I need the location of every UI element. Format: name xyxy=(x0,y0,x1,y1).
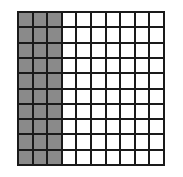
grid-cell-shaded xyxy=(18,43,33,58)
grid-cell xyxy=(62,89,77,104)
grid-cell xyxy=(120,119,135,134)
grid-cell xyxy=(135,150,150,165)
grid-cell xyxy=(135,134,150,149)
grid-cell xyxy=(62,104,77,119)
grid-cell xyxy=(91,134,106,149)
grid-cell xyxy=(91,27,106,42)
grid-cell xyxy=(76,150,91,165)
grid-cell xyxy=(149,134,164,149)
grid-cell-shaded xyxy=(33,73,48,88)
grid-cell xyxy=(149,119,164,134)
grid-cell xyxy=(120,27,135,42)
grid-cell xyxy=(91,58,106,73)
grid-cell xyxy=(62,58,77,73)
grid-cell xyxy=(120,150,135,165)
grid-cell-shaded xyxy=(47,104,62,119)
grid-cell xyxy=(149,43,164,58)
grid-cell xyxy=(106,119,121,134)
grid-cell xyxy=(91,119,106,134)
grid-cell xyxy=(135,89,150,104)
grid-cell-shaded xyxy=(47,43,62,58)
grid-cell xyxy=(106,58,121,73)
grid-cell xyxy=(62,134,77,149)
grid-cell xyxy=(76,12,91,27)
grid-cell xyxy=(62,119,77,134)
grid-cell xyxy=(76,104,91,119)
grid-cell xyxy=(76,134,91,149)
grid-cell-shaded xyxy=(33,104,48,119)
grid-cell xyxy=(120,89,135,104)
grid-cell xyxy=(91,73,106,88)
grid-cell xyxy=(62,43,77,58)
grid-cell xyxy=(106,104,121,119)
grid-cell-shaded xyxy=(47,150,62,165)
grid-cell xyxy=(106,150,121,165)
grid-cell xyxy=(91,150,106,165)
grid-cell-shaded xyxy=(47,89,62,104)
grid-cell xyxy=(149,27,164,42)
grid-cell xyxy=(106,73,121,88)
grid-cell-shaded xyxy=(47,134,62,149)
grid-cell xyxy=(149,58,164,73)
grid-cell xyxy=(106,27,121,42)
grid-cell-shaded xyxy=(33,43,48,58)
grid-cell xyxy=(120,12,135,27)
grid-cell xyxy=(120,134,135,149)
grid-cell xyxy=(76,58,91,73)
grid-cell xyxy=(135,43,150,58)
grid-cell xyxy=(62,73,77,88)
grid-cell xyxy=(76,27,91,42)
grid-cell xyxy=(91,43,106,58)
grid-cell xyxy=(120,43,135,58)
grid-cell xyxy=(106,12,121,27)
grid-cell-shaded xyxy=(33,58,48,73)
grid-cell xyxy=(149,104,164,119)
grid-cell-shaded xyxy=(47,119,62,134)
grid-cell xyxy=(135,119,150,134)
grid-cell-shaded xyxy=(18,119,33,134)
grid-cell xyxy=(91,12,106,27)
grid-cell xyxy=(91,104,106,119)
grid-cell xyxy=(76,43,91,58)
grid-cell-shaded xyxy=(47,27,62,42)
grid-cell-shaded xyxy=(33,150,48,165)
grid-cell-shaded xyxy=(33,119,48,134)
grid-cell-shaded xyxy=(33,134,48,149)
grid-cell xyxy=(149,89,164,104)
grid-cell xyxy=(120,104,135,119)
grid-cell-shaded xyxy=(47,58,62,73)
grid-cell-shaded xyxy=(18,27,33,42)
grid-cell xyxy=(135,73,150,88)
grid-cell xyxy=(149,73,164,88)
grid-cell xyxy=(149,12,164,27)
hundred-grid xyxy=(17,11,165,166)
grid-cell xyxy=(76,89,91,104)
grid-cell xyxy=(120,58,135,73)
grid-cell xyxy=(135,12,150,27)
grid-cell-shaded xyxy=(18,12,33,27)
grid-cell-shaded xyxy=(18,58,33,73)
grid-cell xyxy=(62,12,77,27)
grid-cell-shaded xyxy=(18,150,33,165)
grid-cell xyxy=(135,58,150,73)
grid-cell-shaded xyxy=(18,73,33,88)
grid-cell-shaded xyxy=(18,134,33,149)
grid-cell-shaded xyxy=(47,73,62,88)
grid-cell xyxy=(76,73,91,88)
grid-cell xyxy=(106,89,121,104)
grid-cell xyxy=(91,89,106,104)
grid-cell xyxy=(135,104,150,119)
grid-cell-shaded xyxy=(33,89,48,104)
grid-cell xyxy=(149,150,164,165)
grid-cell-shaded xyxy=(47,12,62,27)
grid-cell xyxy=(62,150,77,165)
grid-cell xyxy=(135,27,150,42)
grid-cell-shaded xyxy=(18,89,33,104)
grid-cell xyxy=(62,27,77,42)
grid-cell xyxy=(106,134,121,149)
grid-cell xyxy=(76,119,91,134)
grid-cell-shaded xyxy=(18,104,33,119)
grid-cell-shaded xyxy=(33,12,48,27)
grid-cell xyxy=(106,43,121,58)
grid-cell-shaded xyxy=(33,27,48,42)
